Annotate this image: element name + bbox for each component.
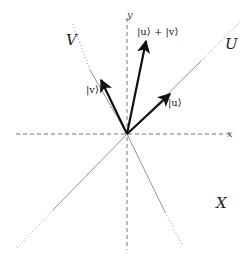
- region-x-label: X: [216, 196, 227, 211]
- vector-diagram: [0, 0, 249, 260]
- x-axis-label: x: [227, 129, 233, 139]
- u-label: |u⟩: [168, 98, 182, 108]
- lower-left-line-solid: [53, 134, 127, 210]
- lower-left-line-dotted: [17, 210, 53, 248]
- v-label: |v⟩: [86, 85, 99, 95]
- subspace-v-label: V: [66, 33, 77, 48]
- vector-v-arrow: [101, 80, 127, 134]
- subspace-u-label: U: [225, 37, 238, 52]
- y-axis-label: y: [127, 10, 133, 20]
- lower-right-line-solid: [127, 134, 165, 212]
- lower-right-line-dotted: [165, 212, 183, 246]
- u-plus-v-label: |u⟩ + |v⟩: [137, 27, 178, 37]
